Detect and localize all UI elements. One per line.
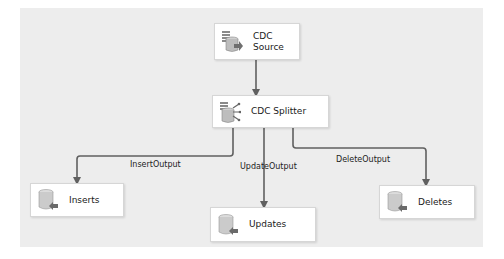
cdc-source-label-line1: CDC	[253, 31, 284, 42]
cdc-source-label: CDC Source	[253, 31, 284, 53]
inserts-node[interactable]: Inserts	[30, 183, 124, 217]
database-destination-icon	[217, 213, 239, 237]
database-destination-icon	[386, 190, 408, 214]
database-destination-icon	[37, 188, 59, 212]
cdc-source-node[interactable]: CDC Source	[214, 23, 300, 60]
cdc-source-icon	[221, 30, 243, 54]
insert-output-label[interactable]: InsertOutput	[130, 160, 181, 169]
deletes-label: Deletes	[418, 197, 452, 208]
path-insert-output[interactable]	[77, 128, 233, 181]
update-output-label[interactable]: UpdateOutput	[240, 162, 297, 171]
updates-label: Updates	[249, 219, 286, 230]
deletes-node[interactable]: Deletes	[379, 185, 475, 219]
inserts-label: Inserts	[69, 195, 100, 206]
delete-output-label[interactable]: DeleteOutput	[336, 155, 390, 164]
cdc-splitter-node[interactable]: CDC Splitter	[212, 95, 329, 128]
updates-node[interactable]: Updates	[210, 207, 316, 242]
cdc-splitter-icon	[219, 100, 241, 124]
cdc-splitter-label: CDC Splitter	[251, 106, 306, 117]
cdc-source-label-line2: Source	[253, 42, 284, 53]
